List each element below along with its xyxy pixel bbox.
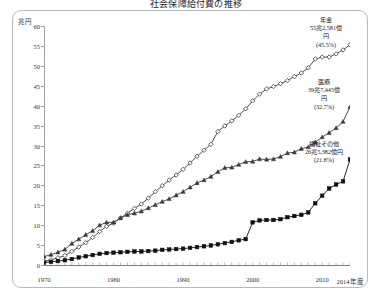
data-point-diamond (271, 84, 275, 88)
data-point-square (216, 242, 220, 246)
y-tick-35: 35 (18, 122, 40, 129)
data-point-square (300, 213, 304, 217)
data-point-square (181, 247, 185, 251)
data-point-square (147, 249, 151, 253)
x-tick-1990: 1990 (177, 276, 190, 283)
x-tick-2010: 2010 (316, 276, 329, 283)
y-tick-55: 55 (18, 42, 40, 49)
annotation-pension-name: 年金 (286, 16, 366, 24)
data-point-triangle (181, 190, 185, 194)
y-tick-0: 0 (18, 262, 40, 269)
data-point-square (341, 180, 345, 184)
data-point-square (293, 214, 297, 218)
data-point-square (251, 221, 255, 225)
data-point-square (49, 260, 53, 264)
data-point-square (174, 247, 178, 251)
data-point-triangle (70, 241, 74, 245)
annotation-pension-unit: 円 (286, 32, 366, 40)
data-point-square (119, 250, 123, 254)
data-point-triangle (84, 233, 88, 237)
data-point-triangle (216, 170, 220, 174)
data-point-triangle (320, 135, 324, 139)
data-point-square (320, 194, 324, 198)
data-point-diamond (278, 82, 282, 86)
chart-title: 社会保障給付費の推移 (46, 0, 346, 10)
data-point-square (188, 246, 192, 250)
data-point-triangle (77, 237, 81, 241)
x-axis-tick-labels: 197019801990200020102014年度 (44, 270, 350, 282)
data-point-diamond (70, 249, 74, 253)
data-point-square (258, 219, 262, 223)
annotation-pension-share: (45.5%) (286, 41, 366, 49)
y-tick-20: 20 (18, 182, 40, 189)
data-point-square (44, 261, 46, 265)
y-tick-15: 15 (18, 202, 40, 209)
data-point-diamond (327, 55, 331, 59)
data-point-square (160, 248, 164, 252)
annotation-welfare-amount: 26兆5,382億円 (278, 148, 370, 156)
annotation-welfare-name: 福祉その他 (278, 140, 370, 148)
data-point-square (223, 241, 227, 245)
data-point-square (244, 237, 248, 241)
y-tick-40: 40 (18, 102, 40, 109)
data-point-square (98, 252, 102, 256)
data-point-square (313, 201, 317, 205)
y-tick-60: 60 (18, 23, 40, 30)
data-point-square (91, 253, 95, 257)
data-point-square (126, 250, 130, 254)
annotation-pension: 年金 55兆2,581億 円 (45.5%) (286, 16, 366, 49)
data-point-square (63, 258, 67, 262)
data-point-diamond (63, 253, 67, 257)
data-point-square (209, 244, 213, 248)
y-tick-5: 5 (18, 242, 40, 249)
data-point-square (237, 239, 241, 243)
data-point-diamond (320, 55, 324, 59)
data-point-square (195, 245, 199, 249)
data-point-square (167, 248, 171, 252)
data-point-square (230, 240, 234, 244)
data-point-square (133, 250, 137, 254)
data-point-square (334, 183, 338, 187)
annotation-welfare-share: (21.8%) (278, 156, 370, 164)
annotation-medical: 医療 39兆7,445億 円 (32.7%) (284, 78, 364, 111)
data-point-square (202, 244, 206, 248)
x-tick-2000: 2000 (246, 276, 259, 283)
data-point-square (327, 187, 331, 191)
annotation-medical-unit: 円 (284, 94, 364, 102)
x-axis-line (44, 265, 350, 266)
data-point-triangle (327, 131, 331, 135)
data-point-square (112, 251, 116, 255)
data-point-square (265, 218, 269, 222)
data-point-square (272, 218, 276, 222)
data-point-square (70, 257, 74, 261)
data-point-square (140, 250, 144, 254)
y-tick-45: 45 (18, 82, 40, 89)
y-axis-tick-labels: 605550454035302520151050 (18, 26, 40, 265)
y-tick-50: 50 (18, 62, 40, 69)
data-point-square (56, 259, 60, 263)
y-tick-10: 10 (18, 222, 40, 229)
annotation-medical-amount: 39兆7,445億 (284, 86, 364, 94)
data-point-square (279, 217, 283, 221)
annotation-pension-amount: 55兆2,581億 (286, 24, 366, 32)
data-point-diamond (334, 52, 338, 56)
annotation-medical-share: (32.7%) (284, 103, 364, 111)
y-tick-25: 25 (18, 162, 40, 169)
data-point-square (306, 211, 310, 215)
annotation-medical-name: 医療 (284, 78, 364, 86)
data-point-square (105, 251, 109, 255)
x-tick-1980: 1980 (107, 276, 120, 283)
data-point-square (153, 249, 157, 253)
data-point-diamond (77, 245, 81, 249)
data-point-triangle (202, 178, 206, 182)
data-point-triangle (174, 193, 178, 197)
x-tick-2014: 2014年度 (337, 276, 364, 286)
annotation-welfare: 福祉その他 26兆5,382億円 (21.8%) (278, 140, 370, 165)
data-point-square (286, 215, 290, 219)
data-point-square (77, 256, 81, 260)
data-point-square (84, 254, 88, 258)
y-tick-30: 30 (18, 142, 40, 149)
x-tick-1970: 1970 (38, 276, 51, 283)
data-point-triangle (188, 185, 192, 189)
data-point-triangle (209, 174, 213, 178)
